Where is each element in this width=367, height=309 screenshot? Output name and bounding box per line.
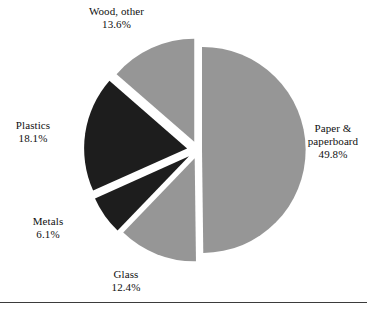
figure-bottom-rule <box>0 302 367 303</box>
pie-label-wood-other-value: 13.6% <box>64 18 169 31</box>
pie-label-metals-line1: Metals <box>17 215 79 228</box>
pie-label-paper-paperboard-value: 49.8% <box>299 148 367 161</box>
pie-label-wood-other: Wood, other 13.6% <box>64 5 169 31</box>
pie-slice-group <box>84 39 306 262</box>
pie-label-paper-paperboard-line1: Paper & <box>299 122 367 135</box>
pie-label-paper-paperboard-line2: paperboard <box>299 135 367 148</box>
pie-label-glass-line1: Glass <box>95 268 157 281</box>
pie-label-paper-paperboard: Paper & paperboard 49.8% <box>299 122 367 161</box>
pie-label-glass: Glass 12.4% <box>95 268 157 294</box>
pie-label-glass-value: 12.4% <box>95 281 157 294</box>
pie-label-metals: Metals 6.1% <box>17 215 79 241</box>
pie-chart-figure: Paper & paperboard 49.8% Wood, other 13.… <box>0 0 367 309</box>
pie-label-metals-value: 6.1% <box>17 228 79 241</box>
pie-label-plastics-value: 18.1% <box>2 132 64 145</box>
pie-label-plastics-line1: Plastics <box>2 119 64 132</box>
pie-slice-paper-paperboard <box>202 47 306 253</box>
pie-label-plastics: Plastics 18.1% <box>2 119 64 145</box>
pie-label-wood-other-line1: Wood, other <box>64 5 169 18</box>
